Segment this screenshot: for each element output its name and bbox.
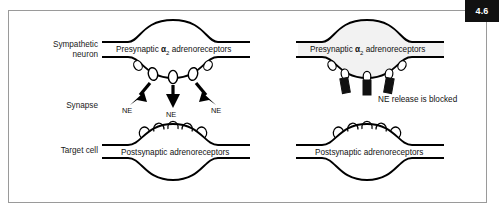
figure-number-badge: 4.6 — [465, 0, 499, 22]
row-label-sympathetic-neuron: Sympathetic neuron — [14, 40, 98, 60]
presynaptic-label-left-prefix: Presynaptic — [116, 45, 161, 54]
row-label-sympathetic-line2: neuron — [14, 50, 98, 60]
ne-tag-left-3: NE — [211, 106, 221, 115]
row-label-target-cell: Target cell — [14, 146, 98, 156]
ne-tag-left-1: NE — [122, 106, 132, 115]
postsynaptic-label-right: Postsynaptic adrenoreceptors — [315, 148, 423, 157]
postsynaptic-label-left: Postsynaptic adrenoreceptors — [121, 148, 229, 157]
presynaptic-label-left-suffix: adrenoreceptors — [169, 45, 231, 54]
presynaptic-label-right-prefix: Presynaptic — [310, 45, 355, 54]
row-label-synapse: Synapse — [14, 101, 98, 111]
presynaptic-label-right: Presynaptic α2 adrenoreceptors — [310, 45, 425, 56]
blocked-status-text: NE release is blocked — [378, 95, 457, 104]
presynaptic-label-right-suffix: adrenoreceptors — [363, 45, 425, 54]
presynaptic-label-left: Presynaptic α2 adrenoreceptors — [116, 45, 231, 56]
ne-tag-left-2: NE — [166, 110, 176, 119]
row-label-sympathetic-line1: Sympathetic — [14, 40, 98, 50]
figure-root: 4.6 Sympathetic neuron Synapse Target ce… — [0, 0, 499, 214]
